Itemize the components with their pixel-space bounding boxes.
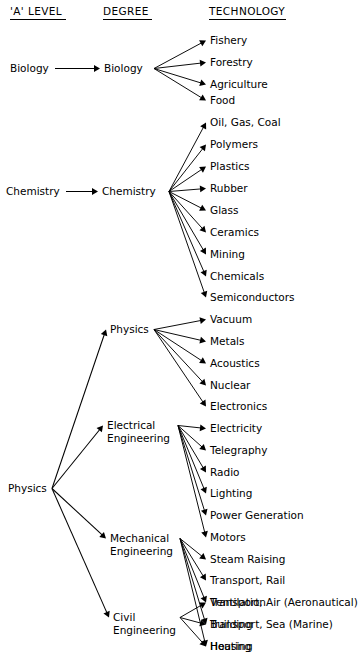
technology-node-t-metals: Metals bbox=[210, 335, 244, 347]
technology-node-t-chemicals: Chemicals bbox=[210, 270, 264, 282]
diagram-background bbox=[0, 0, 364, 659]
technology-node-t-power-gen: Power Generation bbox=[210, 509, 304, 521]
technology-node-t-telegraphy: Telegraphy bbox=[209, 444, 267, 456]
technology-node-t-fishery: Fishery bbox=[210, 34, 247, 46]
degree-node-label-d-civil-line1: Civil bbox=[113, 611, 135, 623]
degree-node-label-d-civil-line2: Engineering bbox=[113, 624, 176, 636]
technology-node-t-ceramics: Ceramics bbox=[210, 226, 259, 238]
technology-node-t-motors: Motors bbox=[210, 531, 246, 543]
column-header-label-degree: DEGREE bbox=[103, 5, 149, 17]
technology-node-t-glass: Glass bbox=[210, 204, 238, 216]
technology-node-t-lighting: Lighting bbox=[210, 487, 252, 499]
degree-node-d-mechanical: MechanicalEngineering bbox=[110, 532, 173, 557]
column-header-label-technology: TECHNOLOGY bbox=[208, 5, 285, 17]
a-level-node-a-chemistry: Chemistry bbox=[6, 185, 60, 197]
technology-node-t-electricity: Electricity bbox=[210, 422, 262, 434]
technology-node-t-radio: Radio bbox=[210, 466, 240, 478]
technology-node-t-semiconductors: Semiconductors bbox=[210, 291, 295, 303]
technology-node-t-acoustics: Acoustics bbox=[210, 357, 260, 369]
technology-node-t-building: Building bbox=[210, 618, 253, 630]
degree-node-label-d-biology: Biology bbox=[104, 62, 143, 74]
a-level-node-a-biology: Biology bbox=[10, 62, 49, 74]
technology-node-t-ventilation: Ventilation bbox=[210, 596, 266, 608]
technology-node-t-oil-gas-coal: Oil, Gas, Coal bbox=[210, 116, 281, 128]
technology-node-t-mining: Mining bbox=[210, 248, 245, 260]
a-level-node-a-physics: Physics bbox=[8, 482, 47, 494]
degree-node-d-biology: Biology bbox=[104, 62, 143, 74]
technology-node-t-food: Food bbox=[210, 94, 235, 106]
technology-node-t-steam-raising: Steam Raising bbox=[210, 553, 285, 565]
degree-node-label-d-physics: Physics bbox=[110, 323, 149, 335]
technology-node-t-agriculture: Agriculture bbox=[210, 78, 268, 90]
degree-node-d-chemistry: Chemistry bbox=[102, 185, 156, 197]
technology-node-t-housing: Housing bbox=[210, 640, 253, 652]
technology-node-t-electronics: Electronics bbox=[210, 400, 267, 412]
degree-node-label-d-electrical-line2: Engineering bbox=[107, 432, 170, 444]
degree-node-label-d-chemistry: Chemistry bbox=[102, 185, 156, 197]
technology-node-t-transport-rail: Transport, Rail bbox=[209, 574, 285, 586]
column-header-label-a-level: 'A' LEVEL bbox=[10, 5, 62, 17]
technology-node-t-nuclear: Nuclear bbox=[210, 379, 251, 391]
technology-node-t-polymers: Polymers bbox=[210, 138, 258, 150]
degree-node-d-physics: Physics bbox=[110, 323, 149, 335]
technology-node-t-rubber: Rubber bbox=[210, 182, 248, 194]
degree-node-label-d-mechanical-line1: Mechanical bbox=[110, 532, 169, 544]
degree-node-label-d-electrical-line1: Electrical bbox=[107, 419, 155, 431]
technology-node-t-plastics: Plastics bbox=[210, 160, 249, 172]
technology-node-t-vacuum: Vacuum bbox=[210, 313, 252, 325]
technology-node-t-forestry: Forestry bbox=[210, 56, 253, 68]
degree-node-label-d-mechanical-line2: Engineering bbox=[110, 545, 173, 557]
career-pathways-diagram: 'A' LEVELDEGREETECHNOLOGY BiologyChemist… bbox=[0, 0, 364, 659]
